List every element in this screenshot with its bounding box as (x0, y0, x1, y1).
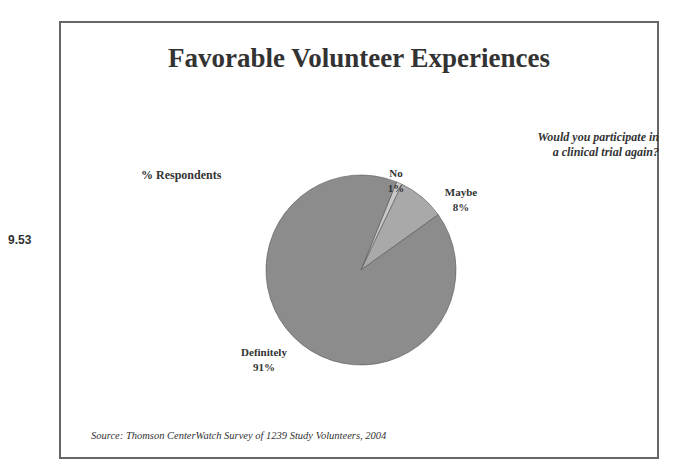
slice-label-maybe: Maybe 8% (436, 185, 486, 215)
slice-label-no: No 1% (381, 166, 411, 196)
slice-label-maybe-name: Maybe (436, 185, 486, 200)
slide-number: 9.53 (8, 233, 31, 247)
slice-label-no-value: 1% (381, 181, 411, 196)
pie-chart (61, 23, 661, 461)
pie-slices (266, 175, 456, 365)
chart-frame: Favorable Volunteer Experiences % Respon… (59, 21, 659, 459)
slice-label-definitely-name: Definitely (229, 345, 299, 360)
slice-label-definitely-value: 91% (229, 360, 299, 375)
slice-label-definitely: Definitely 91% (229, 345, 299, 375)
slice-label-maybe-value: 8% (436, 200, 486, 215)
slice-label-no-name: No (381, 166, 411, 181)
source-note: Source: Thomson CenterWatch Survey of 12… (91, 430, 386, 441)
